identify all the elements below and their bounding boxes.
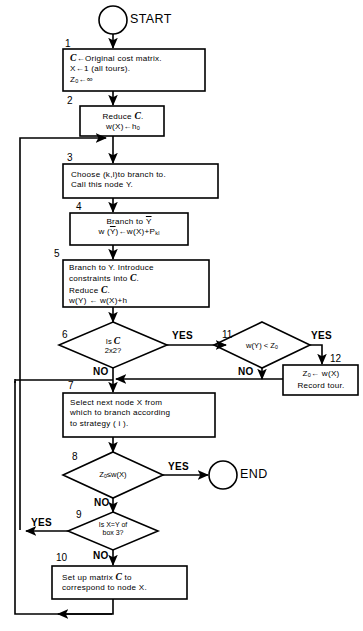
edge-label-11-no: NO (238, 367, 254, 377)
start-terminal-shape (99, 6, 127, 34)
box-4-line2b: )←w(X)+P (116, 227, 156, 236)
diamond-8-text: Z0≤w(X) (84, 470, 142, 481)
diamond-11-text-main: w(Y) < Z (246, 341, 275, 350)
box-10-line1-end: to (122, 573, 132, 582)
box-number-9: 9 (76, 510, 82, 520)
box-number-11: 11 (222, 330, 232, 340)
box-number-10: 10 (56, 553, 67, 563)
box-number-8: 8 (72, 452, 78, 462)
box-1-text: C←Original cost matrix. X←1 (all tours).… (70, 53, 162, 86)
box-number-5: 5 (54, 249, 60, 259)
end-terminal-shape (209, 461, 237, 489)
box-5-line2-end: . (137, 274, 140, 283)
flowchart-lines (0, 0, 363, 631)
box-2-line1-end: . (141, 112, 144, 121)
edge-label-6-yes: YES (172, 331, 193, 341)
box-2-line1: Reduce (102, 112, 131, 121)
box-5-line1: Branch to Y. Introduce (69, 263, 154, 273)
diamond-9-line1: Is X=Y of (88, 521, 138, 529)
flowchart-canvas: START END 1 2 3 4 5 6 7 8 9 10 11 12 C←O… (0, 0, 363, 631)
edge-11-yes (310, 345, 322, 364)
box-12-line1: ← w(X) (311, 369, 339, 378)
diamond-9-line2: box 3? (88, 529, 138, 537)
box-12-text: Z0← w(X) Record tour. (288, 369, 354, 391)
box-1-line3: ←∞ (79, 75, 93, 84)
box-12-line2: Record tour. (288, 381, 354, 391)
box-number-3: 3 (67, 153, 73, 163)
box-4-line2a: w ( (98, 227, 110, 236)
box-4-text: Branch to Y w (Y)←w(X)+Pkl (75, 217, 183, 239)
box-5-line3-end: . (108, 286, 111, 295)
diamond-6-line2: 2x2? (88, 346, 138, 355)
edge-label-8-no: NO (94, 498, 110, 508)
edge-label-8-yes: YES (168, 462, 189, 472)
box-number-6: 6 (62, 330, 68, 340)
box-3-text: Choose (k,l)to branch to. Call this node… (71, 170, 166, 191)
box-5-line2: constraints into (69, 274, 127, 283)
box-number-2: 2 (67, 96, 73, 106)
box-3-line2: Call this node Y. (71, 180, 166, 190)
box-5-line3-symbol: C (101, 284, 108, 295)
start-terminal-label: START (130, 13, 172, 26)
box-7-line2: which to branch according (70, 408, 170, 418)
box-number-12: 12 (330, 354, 341, 364)
box-4-line1-overline: Y (146, 217, 152, 226)
diamond-6-text: Is C 2x2? (88, 336, 138, 355)
box-5-line4: w(Y) ← w(X)+h (69, 296, 154, 306)
diamond-6-line1: Is (106, 337, 112, 346)
box-10-line2: correspond to node X. (62, 583, 147, 593)
box-5-line3: Reduce (69, 286, 98, 295)
box-2-line2: w(X)←h (106, 122, 137, 131)
box-3-line1: Choose (k,l)to branch to. (71, 170, 166, 180)
box-number-7: 7 (68, 381, 74, 391)
diamond-11-subscript: 0 (275, 344, 278, 350)
box-5-line2-symbol: C (130, 272, 137, 283)
box-1-line1: ←Original cost matrix. (77, 54, 162, 63)
box-4-line2-subscript: kl (155, 231, 159, 237)
diamond-9-text: Is X=Y of box 3? (88, 521, 138, 538)
diamond-6-line1-symbol: C (114, 335, 120, 346)
box-5-text: Branch to Y. Introduce constraints into … (69, 263, 154, 307)
box-1-line2: X←1 (all tours). (70, 64, 130, 73)
box-7-text: Select next node X from which to branch … (70, 398, 170, 429)
box-1-line1-symbol: C (70, 52, 77, 63)
box-2-text: Reduce C. w(X)←h0 (95, 111, 151, 134)
diamond-8-text-main: ≤w(X) (107, 470, 127, 479)
edge-label-6-no: NO (93, 367, 109, 377)
box-7-line1: Select next node X from (70, 398, 170, 408)
box-number-4: 4 (76, 202, 82, 212)
box-2-line2-subscript: 0 (137, 126, 140, 132)
diamond-11-text: w(Y) < Z0 (232, 341, 292, 352)
box-7-line3: to strategy ( i ). (70, 419, 170, 429)
box-10-line1: Set up matrix (62, 573, 113, 582)
edge-label-11-yes: YES (311, 331, 332, 341)
edge-label-9-yes: YES (31, 518, 52, 528)
end-terminal-label: END (240, 468, 268, 481)
edge-label-9-no: NO (93, 551, 109, 561)
box-4-line1: Branch to (106, 217, 143, 226)
box-number-1: 1 (65, 39, 71, 49)
box-10-text: Set up matrix C to correspond to node X. (62, 572, 147, 594)
